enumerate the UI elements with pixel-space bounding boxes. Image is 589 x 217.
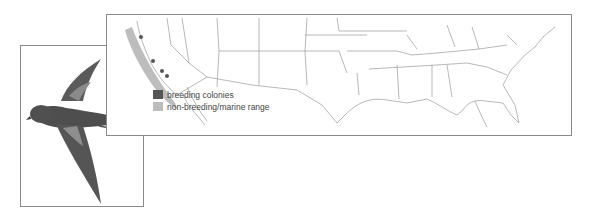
legend-item-breeding: breeding colonies xyxy=(153,89,270,100)
breeding-swatch-icon xyxy=(153,90,163,99)
marine-swatch-icon xyxy=(153,102,163,111)
us-map xyxy=(107,15,571,135)
range-map-panel xyxy=(106,14,572,136)
map-legend: breeding colonies non-breeding/marine ra… xyxy=(153,89,270,113)
legend-label: non-breeding/marine range xyxy=(167,102,270,112)
legend-label: breeding colonies xyxy=(167,90,234,100)
legend-item-marine: non-breeding/marine range xyxy=(153,101,270,112)
